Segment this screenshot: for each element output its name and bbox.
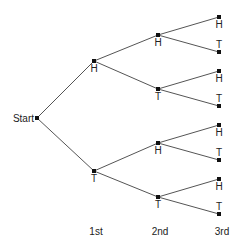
- node-label-h: H: [90, 63, 97, 74]
- tree-edge: [158, 197, 219, 214]
- tree-edges: [37, 17, 219, 214]
- node-label-thh: H: [215, 127, 222, 138]
- node-label-ht: T: [155, 91, 161, 102]
- tree-edge: [158, 179, 219, 197]
- node-label-htt: T: [216, 93, 222, 104]
- node-label-tt: T: [155, 199, 161, 210]
- tree-edge: [94, 61, 158, 89]
- node-label-tth: H: [215, 181, 222, 192]
- tree-node-ttt: [217, 212, 221, 216]
- node-label-th: H: [154, 145, 161, 156]
- tree-node-tht: [217, 158, 221, 162]
- node-label-hht: T: [216, 39, 222, 50]
- tree-edge: [158, 71, 219, 89]
- tree-edge: [94, 171, 158, 197]
- start-label: Start: [13, 113, 34, 124]
- tree-diagram: Start 1st 2nd 3rd HTHTHTHTHTHTHT: [0, 0, 235, 242]
- tree-node-hht: [217, 50, 221, 54]
- node-label-hth: H: [215, 73, 222, 84]
- node-label-hhh: H: [215, 19, 222, 30]
- tree-edge: [158, 17, 219, 35]
- start-node: [35, 116, 39, 120]
- level-label-2nd: 2nd: [152, 226, 169, 237]
- node-label-hh: H: [154, 37, 161, 48]
- tree-edge: [158, 35, 219, 52]
- tree-edge: [158, 125, 219, 143]
- level-label-1st: 1st: [89, 226, 103, 237]
- tree-edge: [158, 143, 219, 160]
- tree-edge: [94, 35, 158, 61]
- tree-edge: [37, 61, 94, 118]
- tree-labels: Start 1st 2nd 3rd HTHTHTHTHTHTHT: [13, 19, 229, 237]
- tree-edge: [37, 118, 94, 171]
- node-label-tht: T: [216, 147, 222, 158]
- tree-edge: [158, 89, 219, 106]
- level-label-3rd: 3rd: [215, 226, 229, 237]
- node-label-ttt: T: [216, 201, 222, 212]
- node-label-t: T: [91, 173, 97, 184]
- tree-edge: [94, 143, 158, 171]
- tree-node-htt: [217, 104, 221, 108]
